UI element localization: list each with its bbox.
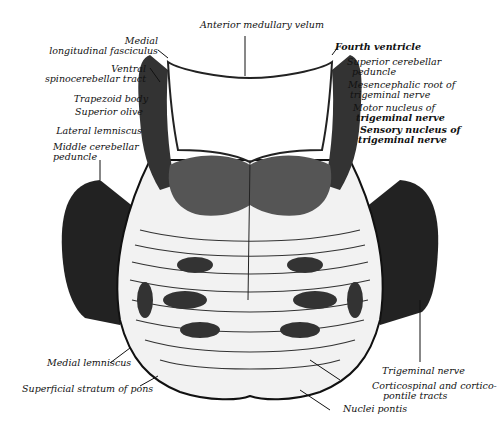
label-medial-lemniscus: Medial lemniscus [47, 358, 131, 368]
label-middle-cerebellar-line2: peduncle [53, 152, 97, 162]
label-superficial-stratum-of-pons: Superficial stratum of pons [22, 384, 153, 394]
pons-cross-section-figure: Anterior medullary velum Medial longitud… [0, 0, 500, 442]
label-sensory-nucleus-line2: trigeminal nerve [358, 135, 447, 145]
label-superior-olive: Superior olive [50, 107, 143, 117]
label-fourth-ventricle: Fourth ventricle [335, 42, 421, 52]
label-medial-longitudinal-fasciculus-line2: longitudinal fasciculus [30, 46, 158, 56]
label-corticospinal-line2: pontile tracts [383, 391, 448, 401]
label-trigeminal-nerve: Trigeminal nerve [382, 366, 465, 376]
label-lateral-lemniscus: Lateral lemniscus [40, 126, 142, 136]
label-mesencephalic-root-line2: trigeminal nerve [350, 90, 430, 100]
label-trapezoid-body: Trapezoid body [50, 94, 148, 104]
label-nuclei-pontis: Nuclei pontis [343, 404, 407, 414]
label-anterior-medullary-velum: Anterior medullary velum [200, 20, 324, 30]
label-motor-nucleus-line2: trigeminal nerve [356, 113, 445, 123]
label-ventral-spinocerebellar-line2: spinocerebellar tract [30, 74, 146, 84]
label-superior-cerebellar-line2: peduncle [352, 67, 396, 77]
